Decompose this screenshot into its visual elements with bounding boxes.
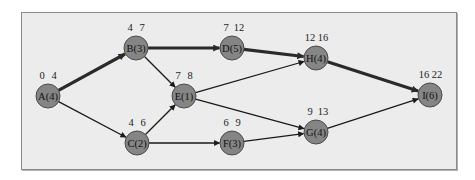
- node-i: I(6)1622: [418, 69, 442, 107]
- edge-a-b-critical: [59, 54, 126, 90]
- earliest-finish-label: 9: [235, 117, 240, 128]
- node-e: E(1)78: [172, 70, 196, 108]
- edge-e-g: [196, 99, 304, 129]
- node-label: E(1): [175, 91, 194, 103]
- edge-b-e: [145, 57, 176, 88]
- node-label: B(3): [126, 43, 146, 55]
- edges-layer: [59, 48, 419, 143]
- node-h: H(4)1216: [304, 32, 328, 70]
- earliest-start-label: 6: [223, 117, 228, 128]
- earliest-finish-label: 4: [51, 70, 57, 81]
- node-g: G(4)913: [304, 106, 328, 144]
- edge-a-c: [59, 102, 126, 138]
- edge-g-i: [327, 99, 418, 128]
- earliest-finish-label: 6: [140, 117, 145, 128]
- edge-f-g: [244, 134, 304, 142]
- earliest-finish-label: 22: [432, 69, 443, 80]
- node-label: D(5): [222, 43, 242, 55]
- network-diagram: A(4)04B(3)47C(2)46D(5)712E(1)78F(3)69G(4…: [0, 0, 475, 180]
- earliest-start-label: 12: [305, 32, 316, 43]
- node-label: G(4): [306, 127, 326, 139]
- node-label: H(4): [306, 53, 326, 65]
- earliest-finish-label: 12: [234, 22, 245, 33]
- node-a: A(4)04: [36, 70, 60, 108]
- edge-d-h-critical: [244, 49, 304, 56]
- earliest-start-label: 7: [223, 22, 228, 33]
- earliest-start-label: 4: [127, 22, 133, 33]
- node-label: C(2): [127, 138, 147, 150]
- node-f: F(3)69: [220, 117, 244, 155]
- earliest-start-label: 0: [39, 70, 44, 81]
- diagram-stage: A(4)04B(3)47C(2)46D(5)712E(1)78F(3)69G(4…: [0, 0, 475, 180]
- earliest-start-label: 4: [128, 117, 134, 128]
- node-d: D(5)712: [220, 22, 244, 60]
- earliest-start-label: 16: [419, 69, 430, 80]
- edge-c-e: [146, 105, 176, 135]
- edge-e-h: [196, 62, 305, 93]
- nodes-layer: A(4)04B(3)47C(2)46D(5)712E(1)78F(3)69G(4…: [36, 22, 442, 155]
- earliest-finish-label: 8: [187, 70, 192, 81]
- earliest-start-label: 9: [307, 106, 312, 117]
- earliest-finish-label: 16: [318, 32, 329, 43]
- node-label: I(6): [422, 90, 438, 102]
- node-b: B(3)47: [124, 22, 148, 60]
- earliest-start-label: 7: [175, 70, 180, 81]
- earliest-finish-label: 7: [139, 22, 144, 33]
- node-label: F(3): [223, 138, 242, 150]
- node-label: A(4): [38, 91, 58, 103]
- edge-h-i-critical: [327, 62, 418, 91]
- node-c: C(2)46: [125, 117, 149, 155]
- earliest-finish-label: 13: [318, 106, 329, 117]
